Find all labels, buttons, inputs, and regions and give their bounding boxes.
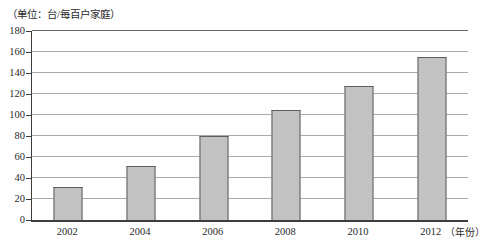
y-tick-mark-40 [26, 178, 32, 179]
y-tick-label-60: 60 [0, 152, 25, 162]
y-axis-unit-label: （单位：台/每百户家庭） [7, 8, 120, 21]
bar-2012 [417, 57, 446, 220]
x-axis-labels: 200220042006200820102012 [31, 226, 467, 240]
gridline-40 [32, 177, 468, 178]
gridline-180 [32, 30, 468, 31]
y-tick-mark-80 [26, 136, 32, 137]
x-tick-label-2012: 2012 [420, 226, 441, 238]
x-tick-label-2002: 2002 [57, 226, 78, 238]
bar-2006 [199, 136, 228, 220]
gridline-60 [32, 156, 468, 157]
x-tick-label-2004: 2004 [130, 226, 151, 238]
y-tick-mark-140 [26, 73, 32, 74]
gridline-120 [32, 93, 468, 94]
x-axis-unit-label: （年份） [445, 227, 485, 239]
y-tick-label-160: 160 [0, 47, 25, 57]
y-tick-mark-160 [26, 52, 32, 53]
bar-2008 [272, 110, 301, 220]
y-tick-label-40: 40 [0, 173, 25, 183]
bar-2002 [54, 187, 83, 220]
y-axis-labels: 020406080100120140160180 [0, 31, 27, 220]
gridline-20 [32, 198, 468, 199]
y-tick-mark-0 [26, 220, 32, 221]
y-tick-mark-100 [26, 115, 32, 116]
y-tick-label-120: 120 [0, 89, 25, 99]
y-tick-label-140: 140 [0, 68, 25, 78]
y-tick-label-80: 80 [0, 131, 25, 141]
gridline-80 [32, 135, 468, 136]
y-tick-label-180: 180 [0, 26, 25, 36]
y-tick-label-20: 20 [0, 194, 25, 204]
x-tick-label-2010: 2010 [348, 226, 369, 238]
y-tick-mark-20 [26, 199, 32, 200]
y-tick-mark-180 [26, 31, 32, 32]
gridline-100 [32, 114, 468, 115]
y-tick-label-0: 0 [0, 215, 25, 225]
bar-2004 [127, 166, 156, 220]
bar-2010 [345, 86, 374, 220]
x-tick-label-2008: 2008 [275, 226, 296, 238]
x-tick-label-2006: 2006 [202, 226, 223, 238]
bar-chart: （单位：台/每百户家庭） 020406080100120140160180 20… [0, 0, 491, 252]
y-tick-label-100: 100 [0, 110, 25, 120]
y-tick-mark-120 [26, 94, 32, 95]
y-tick-mark-60 [26, 157, 32, 158]
gridline-160 [32, 51, 468, 52]
plot-area [31, 31, 468, 222]
gridline-140 [32, 72, 468, 73]
